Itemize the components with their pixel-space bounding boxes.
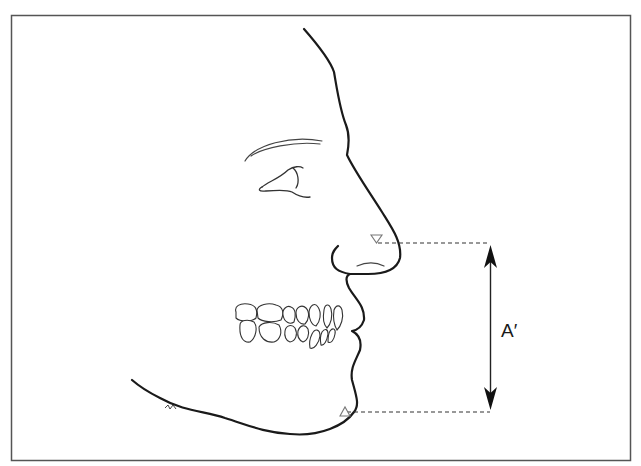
upper-incisor-central <box>334 306 343 330</box>
eye-inner <box>293 168 298 188</box>
lower-canine <box>310 330 320 348</box>
profile-diagram <box>0 0 641 466</box>
lower-molar-2 <box>259 323 281 343</box>
eyebrow-lower <box>251 143 320 156</box>
nostril-outline <box>332 246 350 274</box>
upper-premolar-1 <box>283 306 295 323</box>
upper-molar-1 <box>236 304 257 321</box>
subnasale-marker-icon <box>371 235 382 243</box>
eye-lid <box>259 187 310 197</box>
lower-incisor-2 <box>328 329 335 343</box>
eye-outline <box>262 167 303 187</box>
upper-premolar-2 <box>296 306 309 324</box>
face-profile-outline <box>132 29 400 434</box>
lower-premolar-2 <box>298 326 309 342</box>
upper-canine <box>309 305 320 326</box>
upper-molar-2 <box>257 304 283 322</box>
diagram-frame <box>12 16 631 461</box>
lower-premolar-1 <box>285 326 297 342</box>
eyebrow-upper <box>245 139 322 161</box>
upper-incisor-lateral <box>323 305 331 328</box>
lower-molar-1 <box>240 320 256 342</box>
lower-teeth-group <box>240 320 335 348</box>
lower-incisor-1 <box>320 330 328 346</box>
nostril-ala-line <box>357 263 384 266</box>
measurement-label: A′ <box>501 320 517 342</box>
